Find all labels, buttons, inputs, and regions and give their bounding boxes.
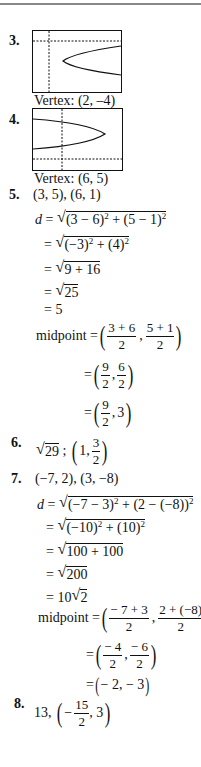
- distance-line: d = √(3 − 6)2 + (5 − 1)2: [35, 211, 166, 227]
- problem-number: 6.: [11, 436, 22, 450]
- problem-number: 3.: [9, 34, 20, 48]
- answer-8: 13, ( − 152 , 3 ): [34, 698, 113, 728]
- midpoint-line: = ( 92 , 3 ): [84, 398, 134, 428]
- distance-line: = √100 + 100: [46, 543, 123, 559]
- problem-number: 8.: [14, 697, 25, 711]
- distance-line: = √200: [46, 566, 87, 582]
- midpoint-line: = ( − 2, − 3 ): [86, 675, 151, 695]
- distance-line: d = √(−7 − 3)2 + (2 − (−8))2: [37, 496, 193, 512]
- distance-line: = √25: [44, 284, 78, 300]
- distance-result: = 5: [44, 303, 62, 317]
- vertex-caption: Vertex: (6, 5): [34, 172, 108, 186]
- points: (3, 5), (6, 1): [33, 188, 101, 202]
- graph-parabola-3: [32, 30, 122, 93]
- midpoint-line: = ( 92 , 62 ): [84, 360, 135, 390]
- midpoint-line: midpoint = ( 3 + 62 , 5 + 12 ): [36, 321, 184, 351]
- midpoint-line: = ( − 42 , − 62 ): [86, 640, 158, 670]
- midpoint-line: midpoint = ( − 7 + 32 , 2 + (−8)2 ): [38, 603, 201, 633]
- distance-line: = √9 + 16: [44, 261, 100, 277]
- problem-number: 4.: [9, 113, 20, 127]
- points: (−7, 2), (3, −8): [35, 472, 118, 486]
- problem-number: 5.: [9, 188, 20, 202]
- vertex-caption: Vertex: (2, –4): [34, 94, 115, 108]
- graph-parabola-4: [32, 108, 123, 171]
- answer-6: √29 ; ( 1, 32 ): [36, 436, 110, 466]
- distance-line: = √(−3)2 + (4)2: [44, 236, 129, 252]
- distance-line: = √(−10)2 + (10)2: [46, 519, 145, 535]
- problem-number: 7.: [11, 472, 22, 486]
- top-rule: [0, 3, 201, 5]
